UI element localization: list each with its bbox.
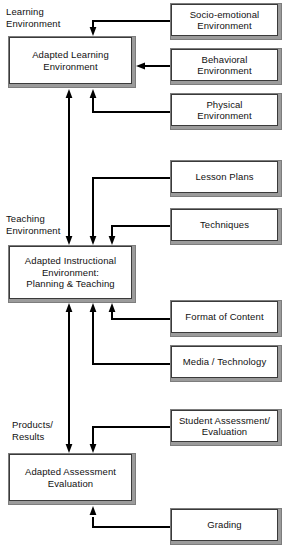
node-techniques[interactable]: Techniques [170,208,282,245]
arrowhead-assessment-up [66,303,73,312]
node-face: Media / Technology [171,346,278,378]
edge-techniques-to-instructional [112,226,170,238]
node-label: Adapted Assessment Evaluation [22,466,119,489]
node-face: Physical Environment [171,94,278,126]
node-format-of-content[interactable]: Format of Content [170,300,282,337]
node-label: Grading [204,519,245,531]
arrowhead-lesson-plans-down [90,236,97,245]
node-media-technology[interactable]: Media / Technology [170,345,282,382]
node-face: Adapted Assessment Evaluation [9,454,132,501]
arrowhead-behavioral-left [136,63,145,70]
edge-socio-to-learning [93,21,170,30]
caption-teaching-environment: Teaching Environment [6,213,60,236]
caption-products-results: Products/ Results [12,419,53,442]
node-adapted-instructional-environment[interactable]: Adapted Instructional Environment: Plann… [8,245,136,303]
arrowhead-instructional-up [66,89,73,98]
node-grading[interactable]: Grading [170,508,282,545]
node-lesson-plans[interactable]: Lesson Plans [170,160,282,197]
node-label: Lesson Plans [192,171,256,183]
node-adapted-learning-environment[interactable]: Adapted Learning Environment [8,36,136,88]
node-face: Adapted Learning Environment [9,37,132,84]
node-label: Physical Environment [194,99,254,122]
node-label: Media / Technology [180,356,269,368]
node-face: Format of Content [171,301,278,333]
node-face: Lesson Plans [171,161,278,193]
arrowhead-techniques-down [109,236,116,245]
node-label: Student Assessment/ Evaluation [176,415,273,438]
node-face: Student Assessment/ Evaluation [171,410,278,442]
flow-diagram: Learning Environment Teaching Environmen… [0,0,286,557]
edge-lesson-plans-to-instructional [93,178,170,238]
edge-media-to-instructional [93,311,170,364]
caption-learning-environment: Learning Environment [6,6,60,29]
arrowhead-student-assessment-down [90,444,97,453]
edge-grading-to-assessment [93,517,170,527]
arrowhead-grading-up [90,506,97,515]
node-face: Grading [171,509,278,541]
arrowhead-physical-up [90,89,97,98]
node-label: Adapted Instructional Environment: Plann… [22,255,119,290]
arrowhead-format-up [109,303,116,312]
node-label: Behavioral Environment [194,54,254,77]
arrowhead-learning-down [66,236,73,245]
node-label: Techniques [197,219,252,231]
arrowhead-media-up [90,303,97,312]
node-label: Format of Content [182,311,266,323]
node-socio-emotional-environment[interactable]: Socio-emotional Environment [170,3,282,40]
node-student-assessment-evaluation[interactable]: Student Assessment/ Evaluation [170,409,282,446]
arrowhead-products-down [66,444,73,453]
node-label: Adapted Learning Environment [29,49,112,72]
edge-student-assessment-to-assessment [93,427,170,446]
node-face: Techniques [171,209,278,241]
edge-physical-to-learning [93,96,170,112]
node-face: Socio-emotional Environment [171,4,278,36]
node-adapted-assessment-evaluation[interactable]: Adapted Assessment Evaluation [8,453,136,505]
arrowhead-socio-down [90,27,97,36]
node-behavioral-environment[interactable]: Behavioral Environment [170,48,282,85]
node-physical-environment[interactable]: Physical Environment [170,93,282,130]
node-label: Socio-emotional Environment [187,9,263,32]
node-face: Adapted Instructional Environment: Plann… [9,246,132,299]
node-face: Behavioral Environment [171,49,278,81]
edge-format-to-instructional [112,311,170,319]
